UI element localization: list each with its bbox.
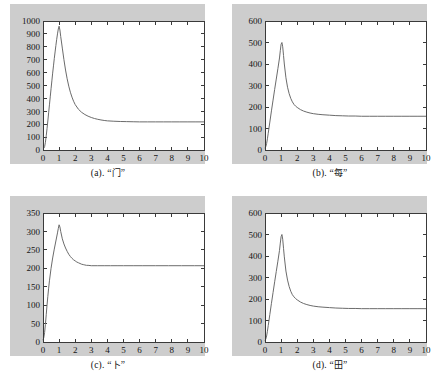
caption-a-prefix: (a). xyxy=(91,168,107,178)
svg-text:10: 10 xyxy=(422,345,432,355)
svg-text:700: 700 xyxy=(27,55,41,65)
plot-area-c: 012345678910050100150200250300350 xyxy=(5,192,211,362)
svg-text:6: 6 xyxy=(137,345,142,355)
svg-text:600: 600 xyxy=(249,16,263,26)
svg-text:0: 0 xyxy=(263,345,268,355)
svg-text:250: 250 xyxy=(27,245,41,255)
svg-text:400: 400 xyxy=(27,94,41,104)
caption-b-prefix: (b). xyxy=(313,168,330,178)
svg-text:10: 10 xyxy=(200,153,210,163)
svg-text:200: 200 xyxy=(249,294,263,304)
svg-text:150: 150 xyxy=(27,282,41,292)
svg-text:3: 3 xyxy=(311,153,316,163)
svg-text:0: 0 xyxy=(263,153,268,163)
svg-text:100: 100 xyxy=(249,316,263,326)
svg-text:9: 9 xyxy=(408,153,413,163)
caption-d-quote-close: ” xyxy=(343,360,347,370)
panel-d: 0123456789100100200300400500600 (d). “田” xyxy=(227,192,433,384)
svg-text:400: 400 xyxy=(249,251,263,261)
svg-text:0: 0 xyxy=(36,337,41,347)
chart-c: 012345678910050100150200250300350 xyxy=(5,192,211,362)
chart-d: 0123456789100100200300400500600 xyxy=(227,192,433,362)
svg-text:3: 3 xyxy=(89,153,94,163)
svg-text:500: 500 xyxy=(249,230,263,240)
svg-text:8: 8 xyxy=(170,345,175,355)
caption-c-char: 卜 xyxy=(112,360,121,370)
figure-container: 0123456789100100200300400500600700800900… xyxy=(0,0,443,385)
svg-text:600: 600 xyxy=(249,208,263,218)
svg-text:400: 400 xyxy=(249,59,263,69)
svg-text:300: 300 xyxy=(249,273,263,283)
svg-text:4: 4 xyxy=(327,153,332,163)
panel-c: 012345678910050100150200250300350 (c). “… xyxy=(5,192,211,384)
chart-a: 0123456789100100200300400500600700800900… xyxy=(5,0,211,170)
svg-text:200: 200 xyxy=(27,263,41,273)
svg-text:900: 900 xyxy=(27,29,41,39)
svg-text:7: 7 xyxy=(153,153,158,163)
svg-text:8: 8 xyxy=(392,153,397,163)
svg-text:300: 300 xyxy=(27,107,41,117)
svg-text:5: 5 xyxy=(343,153,348,163)
svg-text:0: 0 xyxy=(41,345,46,355)
svg-text:500: 500 xyxy=(249,38,263,48)
caption-d: (d). “田” xyxy=(227,358,433,371)
svg-text:800: 800 xyxy=(27,42,41,52)
caption-a-char: 门 xyxy=(112,168,121,178)
chart-b: 0123456789100100200300400500600 xyxy=(227,0,433,170)
panel-b: 0123456789100100200300400500600 (b). “每” xyxy=(227,0,433,192)
svg-text:500: 500 xyxy=(27,81,41,91)
svg-text:1: 1 xyxy=(57,153,62,163)
svg-text:6: 6 xyxy=(137,153,142,163)
plot-area-d: 0123456789100100200300400500600 xyxy=(227,192,433,362)
svg-text:100: 100 xyxy=(249,124,263,134)
svg-text:0: 0 xyxy=(41,153,46,163)
svg-text:3: 3 xyxy=(311,345,316,355)
svg-text:1: 1 xyxy=(279,345,284,355)
svg-text:200: 200 xyxy=(27,119,41,129)
svg-text:5: 5 xyxy=(343,345,348,355)
svg-text:5: 5 xyxy=(121,153,126,163)
caption-d-prefix: (d). xyxy=(313,360,330,370)
svg-text:50: 50 xyxy=(31,319,41,329)
svg-text:3: 3 xyxy=(89,345,94,355)
svg-text:350: 350 xyxy=(27,208,41,218)
svg-text:300: 300 xyxy=(27,227,41,237)
svg-text:8: 8 xyxy=(170,153,175,163)
svg-text:0: 0 xyxy=(258,337,263,347)
svg-text:1: 1 xyxy=(57,345,62,355)
svg-text:2: 2 xyxy=(73,153,78,163)
svg-text:6: 6 xyxy=(359,153,364,163)
svg-text:1: 1 xyxy=(279,153,284,163)
caption-b: (b). “每” xyxy=(227,166,433,179)
caption-c: (c). “卜” xyxy=(5,358,211,371)
svg-text:8: 8 xyxy=(392,345,397,355)
svg-text:4: 4 xyxy=(105,153,110,163)
caption-b-quote-close: ” xyxy=(343,168,347,178)
caption-c-prefix: (c). xyxy=(91,360,107,370)
svg-text:100: 100 xyxy=(27,132,41,142)
plot-area-b: 0123456789100100200300400500600 xyxy=(227,0,433,170)
panel-a: 0123456789100100200300400500600700800900… xyxy=(5,0,211,192)
svg-text:0: 0 xyxy=(258,145,263,155)
svg-text:5: 5 xyxy=(121,345,126,355)
svg-text:0: 0 xyxy=(36,145,41,155)
caption-a: (a). “门” xyxy=(5,166,211,179)
caption-c-quote-close: ” xyxy=(121,360,125,370)
caption-a-quote-close: ” xyxy=(121,168,125,178)
svg-text:10: 10 xyxy=(200,345,210,355)
svg-text:9: 9 xyxy=(408,345,413,355)
svg-text:2: 2 xyxy=(73,345,78,355)
svg-text:600: 600 xyxy=(27,68,41,78)
svg-text:6: 6 xyxy=(359,345,364,355)
svg-text:200: 200 xyxy=(249,102,263,112)
svg-text:100: 100 xyxy=(27,300,41,310)
svg-text:300: 300 xyxy=(249,81,263,91)
caption-d-char: 田 xyxy=(334,360,343,370)
svg-text:10: 10 xyxy=(422,153,432,163)
caption-b-char: 每 xyxy=(334,168,343,178)
svg-text:4: 4 xyxy=(327,345,332,355)
svg-text:4: 4 xyxy=(105,345,110,355)
svg-text:7: 7 xyxy=(375,345,380,355)
svg-text:7: 7 xyxy=(153,345,158,355)
plot-area-a: 0123456789100100200300400500600700800900… xyxy=(5,0,211,170)
